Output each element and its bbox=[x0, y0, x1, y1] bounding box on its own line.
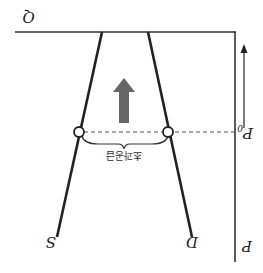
excess-supply-label: 초과공급 bbox=[106, 150, 142, 161]
supply-demand-diagram: Q P P 0 S D 초과공급 bbox=[0, 0, 263, 273]
arrow-icon bbox=[241, 44, 248, 128]
demand-intersection-point bbox=[163, 127, 173, 137]
thick-arrow-icon bbox=[113, 78, 135, 123]
equilibrium-price-subscript: 0 bbox=[237, 123, 243, 133]
demand-curve-label: D bbox=[186, 233, 199, 251]
quantity-axis-label: Q bbox=[23, 8, 35, 26]
supply-intersection-point bbox=[74, 127, 84, 137]
supply-curve-label: S bbox=[46, 233, 56, 251]
excess-brace bbox=[82, 136, 168, 149]
price-axis-label: P bbox=[241, 237, 253, 255]
